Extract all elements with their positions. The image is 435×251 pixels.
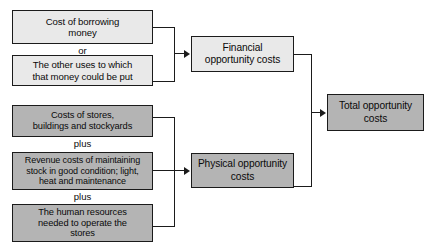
node-financial-opportunity-costs: Financial opportunity costs xyxy=(191,36,294,72)
node-line-1: Costs of stores, xyxy=(51,110,114,121)
node-costs-of-stores-buildings-stockyards: Costs of stores, buildings and stockyard… xyxy=(12,105,153,137)
node-line-1: Revenue costs of maintaining xyxy=(25,155,140,166)
connector-borrowing-to-bus xyxy=(153,27,175,28)
node-line-2: needed to operate the xyxy=(38,218,127,229)
connector-total-bus xyxy=(311,54,312,187)
node-line-2: money xyxy=(68,27,96,38)
node-line-1: Physical opportunity xyxy=(198,158,287,170)
connector-humanresources-to-bus xyxy=(153,226,175,227)
arrow-into-physical-opportunity-costs xyxy=(184,167,190,175)
node-physical-opportunity-costs: Physical opportunity costs xyxy=(191,153,294,188)
node-line-3: stores xyxy=(70,228,95,239)
connector-otheruses-to-bus xyxy=(153,81,175,82)
node-total-opportunity-costs: Total opportunity costs xyxy=(327,94,424,131)
opportunity-costs-diagram: Cost of borrowing money or The other use… xyxy=(0,0,435,251)
node-line-2: costs xyxy=(364,113,387,125)
connector-revenue-to-bus xyxy=(153,170,175,171)
connector-stores-to-bus xyxy=(153,117,175,118)
node-line-1: Financial xyxy=(223,42,263,54)
node-line-2: costs xyxy=(231,171,254,183)
node-revenue-costs-of-maintaining-stock: Revenue costs of maintaining stock in go… xyxy=(12,152,153,190)
connector-financial-bus xyxy=(174,27,175,82)
arrow-into-total-opportunity-costs xyxy=(320,109,326,117)
node-cost-of-borrowing-money-text: Cost of borrowing money xyxy=(12,10,153,44)
plus-label-stores: plus xyxy=(12,139,153,149)
node-line-1: Total opportunity xyxy=(339,100,412,112)
connector-physical-bus xyxy=(174,117,175,227)
node-line-3: heat and maintenance xyxy=(39,176,126,187)
plus-label-revenue: plus xyxy=(12,192,153,202)
node-line-1: The other uses to which xyxy=(33,59,133,70)
node-line-1: Cost of borrowing xyxy=(46,16,120,27)
node-line-2: opportunity costs xyxy=(205,54,280,66)
node-line-2: buildings and stockyards xyxy=(33,121,132,132)
node-line-2: that money could be put xyxy=(32,71,132,82)
node-line-2: stock in good condition; light, xyxy=(26,166,138,177)
node-line-1: The human resources xyxy=(38,207,127,218)
connector-physical-to-total-bus xyxy=(294,186,312,187)
node-human-resources-to-operate-stores: The human resources needed to operate th… xyxy=(12,204,153,242)
arrow-into-financial-opportunity-costs xyxy=(184,50,190,58)
node-other-uses-of-money: The other uses to which that money could… xyxy=(12,55,153,86)
connector-financial-to-total-bus xyxy=(294,54,312,55)
